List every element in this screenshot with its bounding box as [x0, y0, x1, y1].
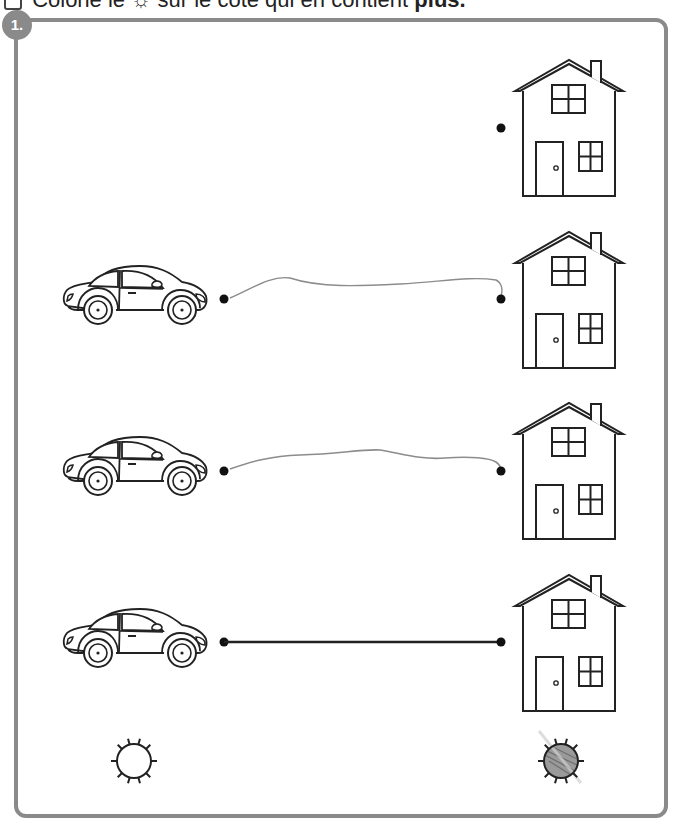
house-2-dot[interactable] — [497, 295, 506, 304]
house-1 — [515, 60, 623, 196]
exercise-canvas — [0, 0, 684, 823]
car-3 — [64, 609, 207, 667]
house-3 — [515, 403, 623, 539]
house-4-dot[interactable] — [497, 638, 506, 647]
house-1-dot[interactable] — [497, 124, 506, 133]
house-2 — [515, 232, 623, 368]
car-1-dot[interactable] — [220, 295, 229, 304]
sun-icon-left[interactable] — [111, 739, 157, 783]
pencil-link-1 — [230, 278, 502, 298]
car-1 — [64, 266, 207, 324]
house-4 — [515, 575, 623, 711]
sun-icon-right[interactable] — [538, 731, 584, 783]
house-3-dot[interactable] — [497, 467, 506, 476]
car-2-dot[interactable] — [220, 467, 229, 476]
car-2 — [64, 437, 207, 495]
pencil-link-2 — [230, 450, 501, 470]
